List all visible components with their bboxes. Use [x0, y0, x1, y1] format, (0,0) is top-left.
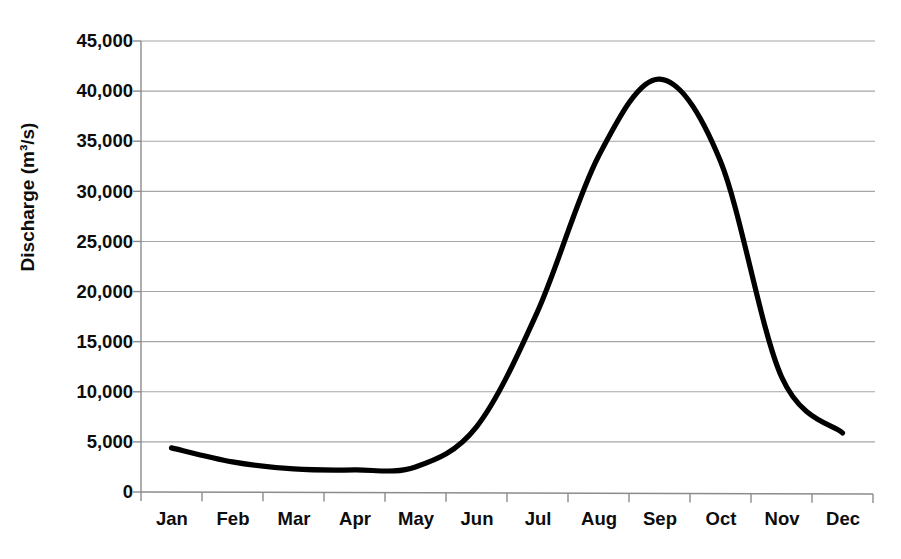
- plot-area: [0, 0, 901, 559]
- y-axis-tick-marks: [133, 41, 141, 492]
- x-axis-line: [141, 492, 873, 494]
- discharge-series-line: [172, 79, 843, 471]
- discharge-line-chart: Discharge (m³/s) 45,000 40,000 35,000 30…: [0, 0, 901, 559]
- gridlines: [141, 41, 875, 442]
